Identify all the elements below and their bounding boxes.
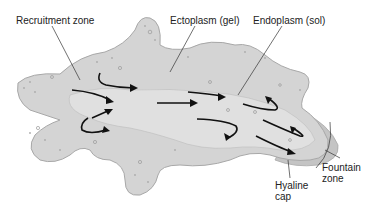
label-fountain-zone-line1: Fountain [322, 162, 361, 173]
label-hyaline-cap-line2: cap [275, 191, 291, 202]
label-recruitment-zone: Recruitment zone [16, 15, 94, 26]
amoeba-illustration [0, 0, 375, 207]
amoeba-diagram: Recruitment zone Ectoplasm (gel) Endopla… [0, 0, 375, 207]
label-hyaline-cap-line1: Hyaline [275, 180, 308, 191]
label-ectoplasm: Ectoplasm (gel) [170, 15, 239, 26]
label-endoplasm: Endoplasm (sol) [253, 15, 325, 26]
label-fountain-zone-line2: zone [322, 173, 344, 184]
